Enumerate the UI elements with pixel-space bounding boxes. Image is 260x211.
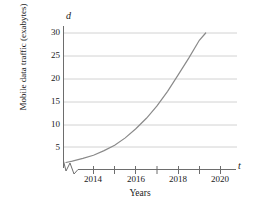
- data-series-mobile-data-traffic: [66, 33, 206, 163]
- chart-figure: Mobile data traffic (exabytes) d t 30 25…: [0, 0, 260, 211]
- plot-svg: [0, 0, 260, 211]
- gridlines: [63, 33, 237, 147]
